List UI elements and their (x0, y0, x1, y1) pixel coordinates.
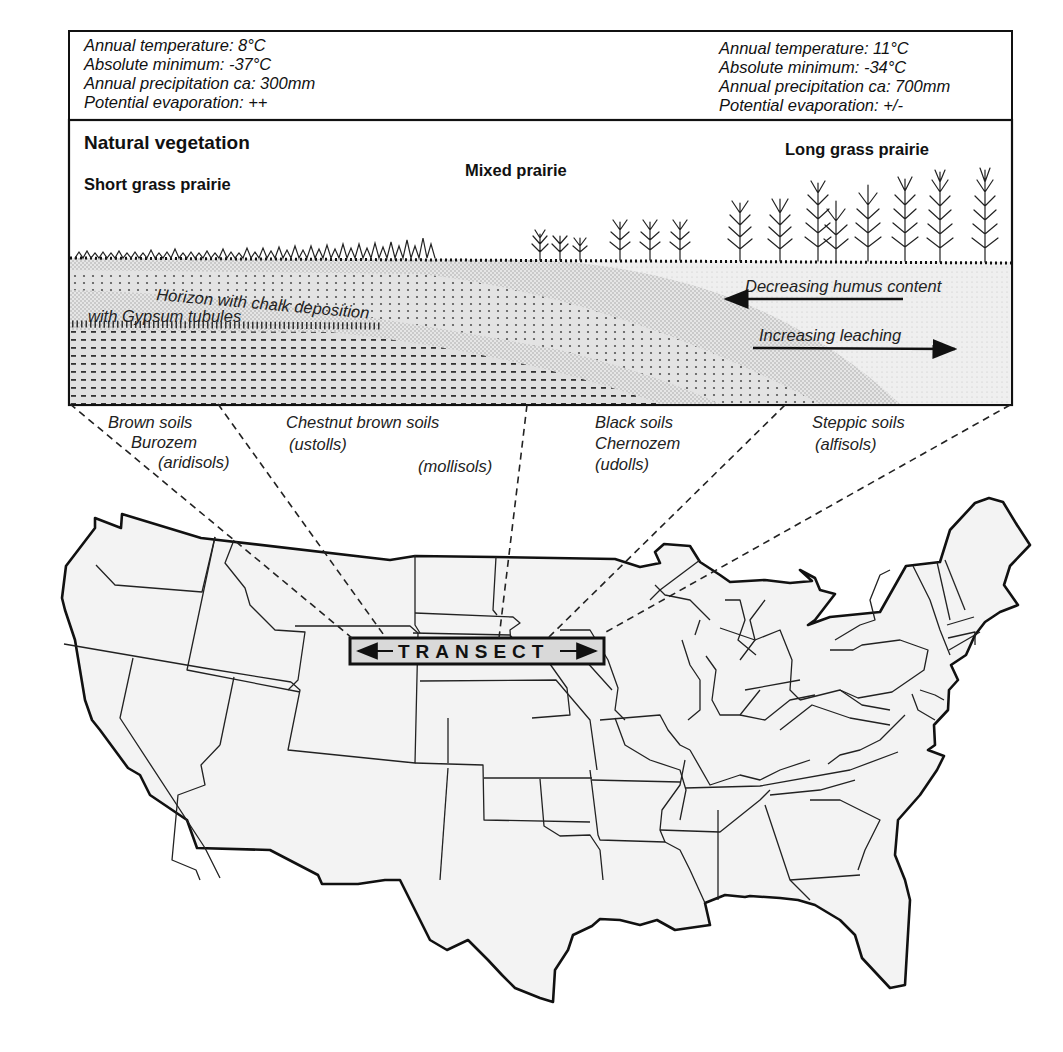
climate-header: Annual temperature: 8°C Absolute minimum… (69, 31, 1012, 120)
west-annual-precipitation: Annual precipitation ca: 300mm (83, 74, 315, 92)
us-map: TRANSECT (62, 498, 1030, 1002)
soil-type-black-line2: Chernozem (595, 434, 680, 452)
transect-marker: TRANSECT (350, 638, 604, 664)
east-absolute-minimum: Absolute minimum: -34°C (718, 58, 906, 76)
vegetation-zone-short-grass: Short grass prairie (84, 175, 231, 193)
soil-type-black-line3: (udolls) (595, 455, 649, 473)
east-annual-precipitation: Annual precipitation ca: 700mm (718, 77, 950, 95)
soil-type-chestnut: Chestnut brown soils (ustolls) (286, 413, 439, 453)
vegetation-zone-mixed: Mixed prairie (465, 161, 567, 179)
transect-label: TRANSECT (398, 641, 549, 662)
leaching-trend-label: Increasing leaching (759, 326, 902, 344)
east-annual-temperature: Annual temperature: 11°C (718, 39, 909, 57)
soil-type-mollisols-line1: (mollisols) (418, 457, 492, 475)
humus-trend-label: Decreasing humus content (745, 277, 943, 295)
profile-panel: Natural vegetation Short grass prairie M… (69, 120, 1012, 405)
soil-type-labels: Brown soils Burozem (aridisols) Chestnut… (108, 413, 905, 475)
gypsum-tubules-label: with Gypsum tubules (88, 307, 241, 325)
leaching-trend-arrow-icon (753, 348, 955, 349)
soil-type-black: Black soils Chernozem (udolls) (595, 413, 680, 473)
west-potential-evaporation: Potential evaporation: ++ (84, 93, 268, 111)
soil-type-steppic-line1: Steppic soils (812, 413, 905, 431)
soil-transect-diagram: Annual temperature: 8°C Absolute minimum… (0, 0, 1063, 1052)
soil-type-black-line1: Black soils (595, 413, 673, 431)
west-absolute-minimum: Absolute minimum: -37°C (83, 55, 271, 73)
soil-type-chestnut-line1: Chestnut brown soils (286, 413, 439, 431)
soil-type-steppic-line2: (alfisols) (815, 435, 876, 453)
east-potential-evaporation: Potential evaporation: +/- (719, 96, 903, 114)
soil-type-chestnut-line2: (ustolls) (289, 435, 347, 453)
soil-type-mollisols: (mollisols) (418, 457, 492, 475)
vegetation-title: Natural vegetation (84, 132, 250, 153)
soil-type-brown-line2: Burozem (131, 433, 197, 451)
vegetation-zone-long-grass: Long grass prairie (785, 140, 929, 158)
soil-type-brown: Brown soils Burozem (aridisols) (108, 413, 230, 471)
soil-type-brown-line3: (aridisols) (158, 453, 230, 471)
soil-type-steppic: Steppic soils (alfisols) (812, 413, 905, 453)
soil-type-brown-line1: Brown soils (108, 413, 192, 431)
west-annual-temperature: Annual temperature: 8°C (83, 36, 266, 54)
